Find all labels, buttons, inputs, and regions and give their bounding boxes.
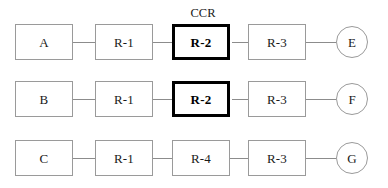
row-2-connector-3 xyxy=(232,99,248,100)
node-row-3-stage-4[interactable]: R-3 xyxy=(248,140,306,176)
row-3-connector-4 xyxy=(306,158,336,159)
row-2-connector-1 xyxy=(73,99,95,100)
row-1-connector-4 xyxy=(306,42,336,43)
node-row-1-stage-2[interactable]: R-1 xyxy=(95,24,153,60)
node-row-2-stage-4[interactable]: R-3 xyxy=(248,81,306,117)
node-label-row-2-stage-4: R-3 xyxy=(267,93,287,106)
node-label-row-1-stage-4: R-3 xyxy=(267,36,287,49)
node-row-2-stage-1[interactable]: B xyxy=(15,81,73,117)
node-label-row-2-stage-3: R-2 xyxy=(191,93,212,106)
node-label-row-3-stage-2: R-1 xyxy=(114,152,134,165)
node-label-row-3-stage-1: C xyxy=(40,152,49,165)
node-row-2-stage-2[interactable]: R-1 xyxy=(95,81,153,117)
node-row-2-stage-3[interactable]: R-2 xyxy=(172,81,230,117)
node-row-1-stage-5[interactable]: E xyxy=(336,26,368,58)
node-row-2-stage-5[interactable]: F xyxy=(336,83,368,115)
node-label-row-1-stage-1: A xyxy=(39,36,49,49)
row-3-connector-2 xyxy=(153,158,172,159)
ccr-annotation-label: CCR xyxy=(182,7,224,20)
node-label-row-1-stage-5: E xyxy=(348,36,356,49)
node-row-1-stage-3[interactable]: R-2 xyxy=(172,24,230,60)
node-row-3-stage-5[interactable]: G xyxy=(336,142,368,174)
row-1-connector-3 xyxy=(232,42,248,43)
node-label-row-1-stage-2: R-1 xyxy=(114,36,134,49)
node-label-row-1-stage-3: R-2 xyxy=(191,36,212,49)
row-1-connector-2 xyxy=(153,42,172,43)
row-2-connector-2 xyxy=(153,99,172,100)
node-label-row-3-stage-3: R-4 xyxy=(191,152,211,165)
node-row-1-stage-1[interactable]: A xyxy=(15,24,73,60)
node-row-3-stage-3[interactable]: R-4 xyxy=(172,140,230,176)
row-2-connector-4 xyxy=(306,99,336,100)
node-label-row-3-stage-4: R-3 xyxy=(267,152,287,165)
node-label-row-2-stage-2: R-1 xyxy=(114,93,134,106)
node-row-3-stage-1[interactable]: C xyxy=(15,140,73,176)
row-3-connector-1 xyxy=(73,158,95,159)
node-label-row-2-stage-1: B xyxy=(40,93,49,106)
node-label-row-2-stage-5: F xyxy=(348,93,355,106)
node-label-row-3-stage-5: G xyxy=(347,152,356,165)
row-1-connector-1 xyxy=(73,42,95,43)
node-row-3-stage-2[interactable]: R-1 xyxy=(95,140,153,176)
row-3-connector-3 xyxy=(230,158,248,159)
diagram-canvas: AR-1R-2R-3EBR-1R-2R-3FCR-1R-4R-3GCCR xyxy=(0,0,388,188)
node-row-1-stage-4[interactable]: R-3 xyxy=(248,24,306,60)
